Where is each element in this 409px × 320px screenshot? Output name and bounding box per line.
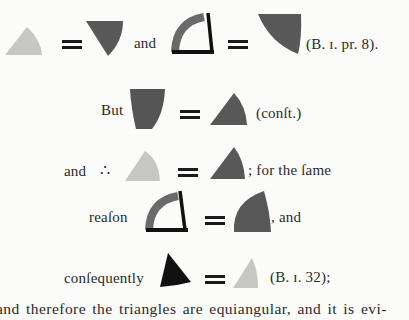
row3-tail: ; for the ſame [248,163,331,178]
dark-inverted-sector-icon [130,88,166,130]
light-triangle-icon [5,24,43,56]
row4-reason: reaſon [89,210,128,225]
light-sector-icon [125,150,161,182]
dark-triangle-icon [210,146,246,180]
equals-sign [180,110,200,119]
black-triangle-icon [158,252,192,288]
row1-and: and [134,36,156,51]
arc-angle-icon [146,191,191,233]
light-narrow-triangle-icon [233,257,259,289]
row4-tail: , and [271,210,301,225]
row5-reference: (B. ɪ. 32); [270,270,331,285]
equals-sign [178,168,198,177]
row2-reference: (conſt.) [256,106,301,121]
row3-and: and [64,164,86,179]
paragraph-line: and therefore the triangles are equiangu… [0,301,387,317]
therefore-symbol: ∴ [100,163,110,179]
arc-angle-icon [172,12,217,54]
dark-inverted-sector-icon [258,13,302,55]
equals-sign [62,40,82,49]
equals-sign [228,40,248,49]
dark-sector-icon [232,190,272,233]
dark-inverted-triangle-icon [86,21,124,57]
row2-but: But [101,103,123,118]
row1-reference: (B. ɪ. pr. 8). [306,37,378,52]
dark-triangle-icon [210,92,248,126]
row5-consequently: conſequently [64,271,144,286]
equals-sign [205,216,225,225]
equals-sign [205,275,225,284]
